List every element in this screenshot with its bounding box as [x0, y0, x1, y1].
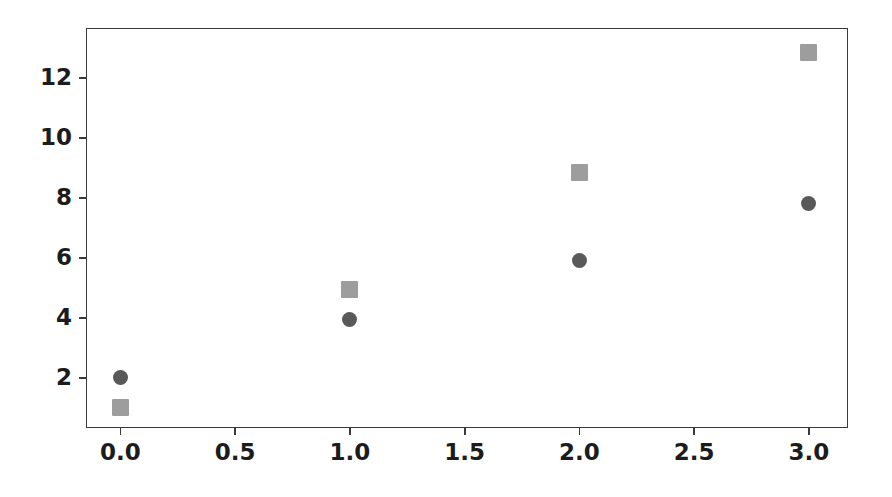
y-tick-mark [79, 77, 86, 79]
x-tick-label: 2.5 [634, 441, 754, 464]
x-tick-label-text: 1.5 [444, 439, 485, 465]
x-tick-label: 0.5 [175, 441, 295, 464]
x-tick-label: 1.5 [405, 441, 525, 464]
x-tick-label: 1.0 [290, 441, 410, 464]
y-tick-label: 8 [0, 186, 72, 210]
y-tick-label: 6 [0, 246, 72, 270]
data-point-square [341, 281, 358, 298]
x-tick-label-text: 1.0 [330, 439, 371, 465]
x-tick-label: 0.0 [60, 441, 180, 464]
data-point-square [571, 164, 588, 181]
y-tick-mark [79, 377, 86, 379]
y-tick-label-text: 6 [56, 246, 72, 269]
x-tick-label: 3.0 [749, 441, 869, 464]
y-tick-label: 10 [0, 126, 72, 150]
y-tick-mark [79, 137, 86, 139]
plot-area [86, 28, 848, 428]
y-tick-label-text: 4 [56, 306, 72, 329]
y-tick-label-text: 2 [56, 366, 72, 389]
x-tick-mark [579, 428, 581, 435]
x-tick-mark [693, 428, 695, 435]
x-tick-label-text: 2.0 [559, 439, 600, 465]
data-point-square [800, 44, 817, 61]
x-tick-label: 2.0 [519, 441, 639, 464]
y-tick-label: 2 [0, 366, 72, 390]
y-tick-mark [79, 197, 86, 199]
data-point-square [112, 399, 129, 416]
x-tick-label-text: 3.0 [789, 439, 830, 465]
y-tick-label-text: 12 [40, 66, 72, 89]
y-tick-label-text: 8 [56, 186, 72, 209]
x-tick-label-text: 2.5 [674, 439, 715, 465]
x-tick-mark [464, 428, 466, 435]
y-tick-label: 4 [0, 306, 72, 330]
x-tick-mark [349, 428, 351, 435]
x-tick-mark [234, 428, 236, 435]
y-tick-mark [79, 257, 86, 259]
x-tick-label-text: 0.0 [100, 439, 141, 465]
y-tick-label-text: 10 [40, 126, 72, 149]
x-tick-mark [808, 428, 810, 435]
scatter-plot-figure: 24681012 0.00.51.01.52.02.53.0 [0, 0, 892, 497]
x-tick-label-text: 0.5 [215, 439, 256, 465]
y-tick-mark [79, 317, 86, 319]
y-tick-label: 12 [0, 66, 72, 90]
x-tick-mark [120, 428, 122, 435]
